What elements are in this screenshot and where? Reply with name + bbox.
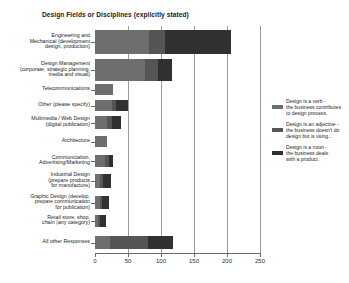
tick-100 <box>161 253 162 257</box>
tick-200 <box>227 253 228 257</box>
bar-segment <box>103 174 111 188</box>
bar-segment <box>158 59 173 81</box>
bar-segment <box>116 100 128 111</box>
tick-0 <box>95 253 96 257</box>
legend-swatch <box>272 105 283 110</box>
page-title: Design Fields or Disciplines (explicitly… <box>42 11 189 18</box>
bar-segment <box>145 59 158 81</box>
y-axis-label-line: (digital publication) <box>4 122 90 128</box>
y-axis-label-line: design, production) <box>4 44 90 50</box>
y-axis-label: Retail store, shop,chain (any category) <box>4 215 90 226</box>
y-axis-label: Design Management(corporate, strategic p… <box>4 61 90 78</box>
y-axis-label: Industrial Design(prepare productsfor ma… <box>4 172 90 189</box>
tick-label-200: 200 <box>222 258 232 264</box>
bar-segment <box>148 236 173 249</box>
bar-segment <box>95 236 110 249</box>
bar-segment <box>95 30 149 54</box>
legend-label-line: to design process. <box>286 111 349 117</box>
bar-segment <box>95 59 145 81</box>
gridline-200 <box>227 26 228 253</box>
y-axis-label-line: for publication) <box>4 205 90 211</box>
tick-label-150: 150 <box>189 258 199 264</box>
y-axis-label-line: All other Responses <box>4 239 90 245</box>
y-axis-label: Communication,Advertising/Marketing <box>4 155 90 166</box>
gridline-150 <box>194 26 195 253</box>
tick-label-0: 0 <box>93 258 96 264</box>
y-axis-label-line: for manufacture) <box>4 183 90 189</box>
gridline-250 <box>260 26 261 253</box>
tick-label-250: 250 <box>255 258 265 264</box>
y-axis-label: Graphic Design (develop,prepare communic… <box>4 194 90 211</box>
bar-segment <box>100 215 106 227</box>
y-axis-label: Telecommunications <box>4 86 90 92</box>
legend-item[interactable]: Design is an adjective -the business doe… <box>272 122 349 140</box>
y-axis-label: Engineering andMechanical (developmentde… <box>4 33 90 50</box>
y-axis-label-line: Advertising/Marketing <box>4 160 90 166</box>
bar-segment <box>110 236 148 249</box>
x-axis-line <box>95 253 261 254</box>
y-axis-label-line: Other (please specify) <box>4 102 90 108</box>
bar-segment <box>165 30 231 54</box>
bar-segment <box>112 116 121 129</box>
tick-150 <box>194 253 195 257</box>
y-axis-label: All other Responses <box>4 239 90 245</box>
bar-segment <box>102 196 109 209</box>
tick-50 <box>128 253 129 257</box>
bar-segment <box>95 84 113 95</box>
legend-swatch <box>272 128 283 133</box>
chart-legend: Design is a verb -the business contribut… <box>272 99 349 169</box>
legend-label-line: design but is using... <box>286 134 349 140</box>
y-axis-label: Architecture <box>4 138 90 144</box>
bar-segment <box>95 100 112 111</box>
y-axis-label-line: media and visual) <box>4 72 90 78</box>
legend-label-line: with a product. <box>286 157 349 163</box>
legend-swatch <box>272 151 283 156</box>
y-axis-label: Multimedia / Web Design(digital publicat… <box>4 116 90 127</box>
bar-segment <box>95 155 105 167</box>
y-axis-label-line: Architecture <box>4 138 90 144</box>
bar-segment <box>95 116 107 129</box>
bar-chart: Design Fields or Disciplines (explicitly… <box>0 0 349 283</box>
tick-label-50: 50 <box>125 258 132 264</box>
y-axis-label: Other (please specify) <box>4 102 90 108</box>
legend-item[interactable]: Design is a verb -the business contribut… <box>272 99 349 117</box>
bar-segment <box>95 136 107 147</box>
y-axis-label-line: chain (any category) <box>4 220 90 226</box>
bar-segment <box>109 155 113 167</box>
y-axis-label-line: Telecommunications <box>4 86 90 92</box>
tick-label-100: 100 <box>156 258 166 264</box>
tick-250 <box>260 253 261 257</box>
bar-segment <box>149 30 165 54</box>
legend-item[interactable]: Design is a noun -the business dealswith… <box>272 145 349 163</box>
